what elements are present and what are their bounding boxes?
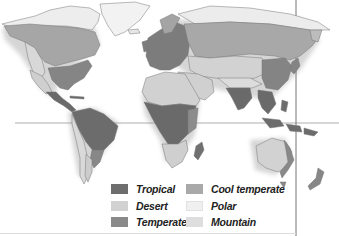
region-tasmania bbox=[280, 182, 286, 188]
region-madagascar bbox=[194, 142, 204, 160]
region-south-asia bbox=[226, 88, 252, 110]
region-philippines bbox=[281, 100, 288, 112]
region-east-asia bbox=[262, 58, 292, 90]
region-caribbean bbox=[70, 96, 84, 99]
region-uk bbox=[142, 40, 149, 52]
region-east-africa bbox=[188, 108, 198, 134]
region-southern-africa bbox=[162, 140, 188, 168]
region-iceland bbox=[128, 29, 140, 34]
region-new-zealand bbox=[308, 168, 324, 190]
world-climate-map bbox=[0, 0, 339, 236]
region-greenland bbox=[100, 2, 150, 36]
region-southeast-asia-islands bbox=[262, 118, 318, 136]
bottom-divider bbox=[0, 233, 296, 234]
region-central-america bbox=[46, 92, 76, 112]
